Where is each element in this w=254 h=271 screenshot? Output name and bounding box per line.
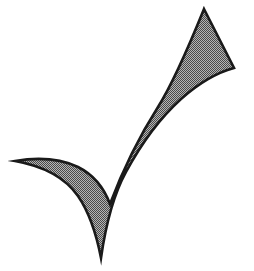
image-canvas: Check mark (0, 0, 254, 271)
checkmark-graphic (0, 0, 254, 271)
